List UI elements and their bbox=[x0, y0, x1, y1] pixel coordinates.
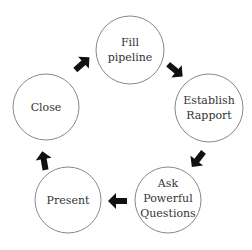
arrow-close-to-fill-icon bbox=[70, 51, 95, 76]
node-close: Close bbox=[13, 74, 79, 140]
node-label: Powerful bbox=[143, 192, 193, 205]
node-label: Fill bbox=[121, 36, 140, 49]
node-label: pipeline bbox=[108, 51, 153, 64]
arrow-ask-to-present-icon bbox=[108, 193, 127, 209]
node-fill-pipeline: Fill pipeline bbox=[96, 16, 164, 84]
node-label: Ask bbox=[157, 177, 179, 190]
node-present: Present bbox=[35, 167, 101, 233]
arrow-present-to-close-icon bbox=[34, 150, 53, 171]
node-label: Questions bbox=[140, 207, 196, 220]
node-establish-rapport: Establish Rapport bbox=[175, 74, 243, 142]
sales-cycle-diagram: Fill pipeline Establish Rapport Ask Powe… bbox=[0, 0, 252, 250]
node-ask-powerful-questions: Ask Powerful Questions bbox=[135, 167, 201, 233]
arrow-establish-to-ask-icon bbox=[186, 147, 210, 172]
node-label: Present bbox=[47, 194, 90, 207]
node-label: Establish bbox=[183, 94, 234, 107]
node-label: Rapport bbox=[186, 109, 232, 122]
arrow-fill-to-establish-icon bbox=[163, 58, 188, 82]
node-label: Close bbox=[31, 101, 62, 114]
